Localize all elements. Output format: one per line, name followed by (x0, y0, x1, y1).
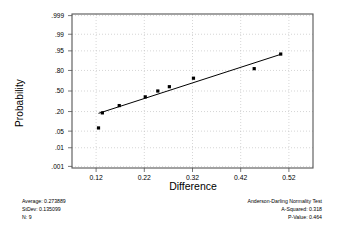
data-point (118, 104, 121, 107)
y-axis-tick-label: .01 (38, 144, 64, 151)
y-axis-tick-label: .99 (38, 31, 64, 38)
probability-plot-figure: Probability Difference Average: 0.273889… (0, 0, 341, 238)
ad-test-title: Anderson-Darling Normality Test (222, 197, 322, 205)
x-axis-tick-label: 0.22 (127, 174, 161, 182)
y-axis-title-wrapper: Probability (14, 0, 28, 58)
y-axis-title: Probability (14, 58, 25, 148)
x-axis-tick-label: 0.52 (272, 174, 306, 182)
stat-n: N: 9 (22, 213, 66, 221)
ad-a-squared: A-Squared: 0.318 (222, 205, 322, 213)
y-axis-tick-label: .50 (38, 87, 64, 94)
x-axis-tick-label: 0.42 (224, 174, 258, 182)
anderson-darling-test: Anderson-Darling Normality Test A-Square… (222, 197, 322, 222)
y-axis-tick-label: .80 (38, 67, 64, 74)
y-axis-tick-label: .001 (38, 163, 64, 170)
y-axis-tick-label: .05 (38, 128, 64, 135)
data-point (101, 111, 104, 114)
data-point (97, 126, 100, 129)
y-axis-tick-label: .20 (38, 108, 64, 115)
data-point (168, 85, 171, 88)
x-axis-tick-label: 0.12 (79, 174, 113, 182)
y-axis-tick-label: .999 (38, 12, 64, 19)
ad-p-value: P-Value: 0.464 (222, 213, 322, 221)
data-point (253, 67, 256, 70)
y-axis-tick-label: .95 (38, 47, 64, 54)
stat-average: Average: 0.273889 (22, 197, 66, 205)
data-point (192, 77, 195, 80)
x-axis-tick-label: 0.32 (176, 174, 210, 182)
data-point (156, 89, 159, 92)
stat-stdev: StDev: 0.135099 (22, 205, 66, 213)
data-point (279, 52, 282, 55)
summary-statistics: Average: 0.273889 StDev: 0.135099 N: 9 (22, 197, 66, 222)
data-point (144, 95, 147, 98)
